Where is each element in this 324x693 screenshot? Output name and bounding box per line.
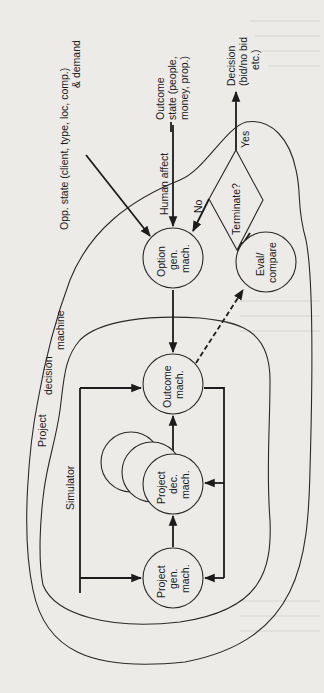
svg-text:gen.: gen. — [167, 250, 179, 270]
svg-text:Project: Project — [155, 565, 167, 598]
edge-outcome-to-eval — [196, 290, 243, 363]
svg-text:machine: machine — [54, 310, 66, 350]
node-option-gen-mach: Option gen. mach. — [143, 228, 203, 288]
svg-text:Decision: Decision — [225, 46, 237, 86]
svg-text:mach.: mach. — [173, 370, 185, 399]
node-project-gen-mach: Project gen. mach. — [143, 548, 203, 608]
svg-text:(bid/no bid: (bid/no bid — [237, 37, 249, 86]
svg-text:etc.): etc.) — [249, 50, 261, 70]
svg-text:compare: compare — [266, 242, 278, 283]
terminate-label: Terminate? — [230, 183, 242, 235]
svg-text:gen.: gen. — [167, 569, 179, 589]
edge-label-yes: Yes — [239, 131, 251, 148]
svg-text:Eval/: Eval/ — [254, 253, 266, 276]
human-affect-label: Human affect — [158, 153, 170, 215]
svg-text:Option: Option — [155, 246, 167, 277]
svg-text:dec.: dec. — [167, 474, 179, 494]
svg-text:Opp. state (client, type, loc,: Opp. state (client, type, loc, comp.) — [58, 68, 70, 230]
node-project-dec-mach-stack: Project dec. mach. — [101, 432, 203, 514]
node-eval-compare: Eval/ compare — [236, 232, 296, 292]
bleed-through-texture — [240, 20, 320, 632]
svg-text:mach.: mach. — [179, 244, 191, 273]
svg-text:Outcome: Outcome — [161, 365, 173, 408]
opp-state-input-label: Opp. state (client, type, loc, comp.) & … — [58, 40, 82, 230]
svg-text:mach.: mach. — [179, 564, 191, 593]
decision-output-label: Decision (bid/no bid etc.) — [225, 37, 261, 86]
svg-text:Outcome: Outcome — [154, 77, 166, 120]
edge-label-no: No — [192, 199, 204, 213]
project-decision-diagram: Terminate? No Yes Decision (bid/no bid e… — [0, 0, 324, 693]
svg-text:money, prop.): money, prop.) — [178, 56, 190, 120]
svg-text:state (people,: state (people, — [166, 56, 178, 120]
region-label-simulator: Simulator — [64, 465, 76, 510]
edge-opp-state-to-option-gen — [86, 155, 150, 236]
svg-text:mach.: mach. — [179, 470, 191, 499]
svg-text:Project: Project — [155, 471, 167, 504]
region-label-project-decision-machine: Project decision machine — [36, 310, 66, 447]
outcome-state-input-label: Outcome state (people, money, prop.) — [154, 56, 190, 120]
svg-text:decision: decision — [42, 356, 54, 395]
svg-text:Project: Project — [36, 414, 48, 447]
node-outcome-mach: Outcome mach. — [143, 354, 203, 414]
svg-text:& demand: & demand — [70, 40, 82, 88]
